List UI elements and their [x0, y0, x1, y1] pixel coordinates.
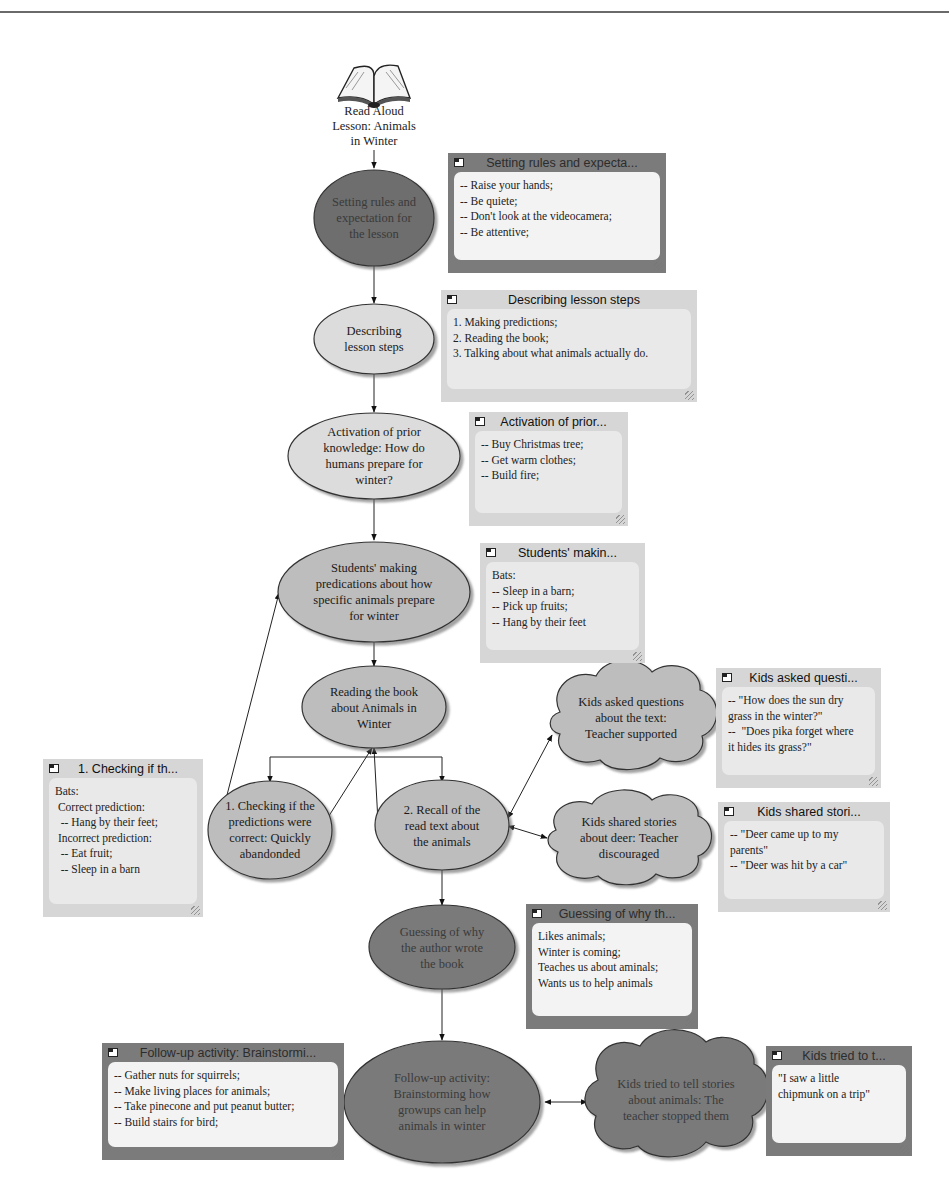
note-stories[interactable]: Kids tried to t... "I saw a little chipm…	[766, 1046, 912, 1156]
open-book-icon	[338, 65, 410, 108]
note-title: Students' makin...	[496, 546, 639, 560]
resize-grip-icon[interactable]	[900, 1145, 909, 1154]
note-body[interactable]: -- Gather nuts for squirrels; -- Make li…	[108, 1062, 338, 1147]
edge-recall-questions	[508, 735, 552, 818]
note-body[interactable]: Bats: Correct prediction: -- Hang by the…	[49, 778, 197, 904]
node-prior-label[interactable]: Activation of prior knowledge: How do hu…	[296, 422, 452, 490]
note-checking[interactable]: 1. Checking if th... Bats: Correct predi…	[43, 759, 203, 917]
node-predict-label[interactable]: Students' making predications about how …	[286, 558, 462, 626]
node-recall-label[interactable]: 2. Recall of the read text about the ani…	[380, 800, 504, 852]
note-title: Follow-up activity: Brainstormi...	[118, 1046, 338, 1060]
note-deer[interactable]: Kids shared stori... -- "Deer came up to…	[718, 802, 890, 912]
resize-grip-icon[interactable]	[616, 515, 625, 524]
note-predict[interactable]: Students' makin... Bats: -- Sleep in a b…	[480, 543, 645, 663]
node-guessing-label[interactable]: Guessing of why the author wrote the boo…	[376, 922, 508, 974]
resize-grip-icon[interactable]	[633, 652, 642, 661]
note-collapse-icon[interactable]	[724, 807, 734, 816]
edge-recall-deer	[508, 826, 547, 838]
note-title: Activation of prior...	[485, 415, 622, 429]
note-body[interactable]: "I saw a little chipmunk on a trip"	[772, 1065, 906, 1143]
edge-reading-recall	[374, 757, 442, 782]
resize-grip-icon[interactable]	[869, 777, 878, 786]
note-guessing[interactable]: Guessing of why th... Likes animals; Win…	[526, 904, 698, 1029]
node-steps-label[interactable]: Describing lesson steps	[318, 320, 430, 358]
node-rules-label[interactable]: Setting rules and expectation for the le…	[318, 190, 430, 246]
note-body[interactable]: 1. Making predictions; 2. Reading the bo…	[447, 309, 691, 389]
note-body[interactable]: Bats: -- Sleep in a barn; -- Pick up fru…	[486, 562, 639, 650]
note-title: Kids asked questi...	[732, 671, 875, 685]
note-collapse-icon[interactable]	[447, 295, 457, 304]
resize-grip-icon[interactable]	[332, 1149, 341, 1158]
note-body[interactable]: Likes animals; Winter is coming; Teaches…	[532, 923, 692, 1016]
note-collapse-icon[interactable]	[454, 158, 464, 167]
note-title: Guessing of why th...	[542, 907, 692, 921]
note-body[interactable]: -- Buy Christmas tree; -- Get warm cloth…	[475, 431, 622, 513]
note-collapse-icon[interactable]	[49, 764, 59, 773]
note-collapse-icon[interactable]	[772, 1051, 782, 1060]
node-questions-label[interactable]: Kids asked questions about the text: Tea…	[566, 692, 696, 744]
note-title: Kids shared stori...	[734, 805, 884, 819]
node-reading-label[interactable]: Reading the book about Animals in Winter	[308, 682, 440, 734]
note-title: Describing lesson steps	[457, 293, 691, 307]
note-title: 1. Checking if th...	[59, 762, 197, 776]
node-followup-label[interactable]: Follow-up activity: Brainstorming how gr…	[368, 1068, 516, 1136]
note-body[interactable]: -- "Deer came up to my parents" -- "Deer…	[724, 821, 884, 899]
resize-grip-icon[interactable]	[686, 1018, 695, 1027]
note-collapse-icon[interactable]	[108, 1048, 118, 1057]
node-checking-label[interactable]: 1. Checking if the predictions were corr…	[212, 796, 328, 864]
note-body[interactable]: -- "How does the sun dry grass in the wi…	[722, 687, 875, 775]
note-title: Setting rules and expecta...	[464, 156, 660, 170]
resize-grip-icon[interactable]	[878, 901, 887, 910]
note-collapse-icon[interactable]	[722, 673, 732, 682]
note-body[interactable]: -- Raise your hands; -- Be quiete; -- Do…	[454, 172, 660, 260]
resize-grip-icon[interactable]	[191, 906, 200, 915]
note-collapse-icon[interactable]	[475, 417, 485, 426]
edge-recall-reading	[374, 748, 378, 822]
note-steps[interactable]: Describing lesson steps 1. Making predic…	[441, 290, 697, 402]
note-prior[interactable]: Activation of prior... -- Buy Christmas …	[469, 412, 628, 526]
note-followup[interactable]: Follow-up activity: Brainstormi... -- Ga…	[102, 1043, 344, 1160]
resize-grip-icon[interactable]	[685, 391, 694, 400]
resize-grip-icon[interactable]	[654, 262, 663, 271]
note-questions[interactable]: Kids asked questi... -- "How does the su…	[716, 668, 881, 788]
note-rules[interactable]: Setting rules and expecta... -- Raise yo…	[448, 153, 666, 273]
note-collapse-icon[interactable]	[532, 909, 542, 918]
note-collapse-icon[interactable]	[486, 548, 496, 557]
node-stories-label[interactable]: Kids tried to tell stories about animals…	[598, 1074, 754, 1126]
root-label[interactable]: Read Aloud Lesson: Animals in Winter	[324, 104, 424, 149]
note-title: Kids tried to t...	[782, 1049, 906, 1063]
node-deer-label[interactable]: Kids shared stories about deer: Teacher …	[562, 812, 696, 864]
